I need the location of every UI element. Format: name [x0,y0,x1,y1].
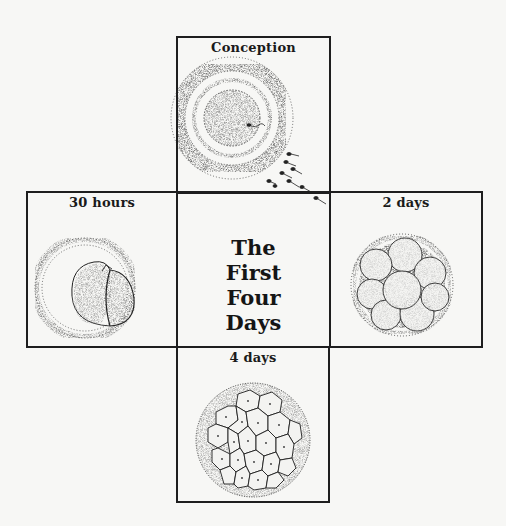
title-line-2: First [178,260,329,285]
center-title: The First Four Days [178,235,329,335]
stage-box-conception: Conception [176,36,331,194]
stage-box-2-days: 2 days [329,191,483,348]
title-line-3: Four [178,285,329,310]
stage-box-30-hours: 30 hours [26,191,178,348]
egg-with-sperm-icon [176,36,331,194]
center-title-box: The First Four Days [176,191,331,348]
title-line-1: The [178,235,329,260]
eight-cell-embryo-icon [329,191,483,348]
morula-icon [176,346,330,503]
title-line-4: Days [178,310,329,335]
stage-box-4-days: 4 days [176,346,330,503]
two-cell-embryo-icon [26,191,178,348]
